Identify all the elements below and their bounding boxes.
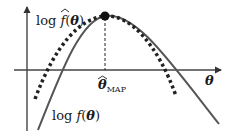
x-axis-label: θ [205,73,214,88]
map-peak-marker [101,12,110,21]
true-curve-label: log f(θ) [52,108,100,123]
map-label: θMAP [98,77,127,94]
approx-curve-label: log f(θ) [36,13,84,28]
laplace-diagram: log f(θ) θMAP θ log f(θ) [0,0,232,137]
hat-accent-f [61,9,69,12]
